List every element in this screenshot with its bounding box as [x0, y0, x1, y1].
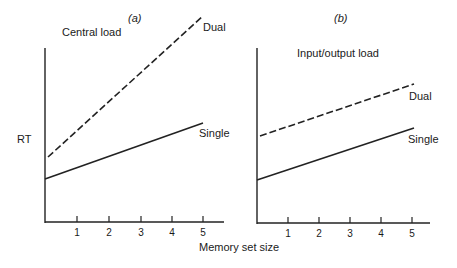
figure: (a) Central load RT 1 2 3 4 5 Dual Singl…	[0, 0, 457, 268]
panel-a-tick-labels: 1 2 3 4 5	[74, 227, 206, 238]
svg-text:2: 2	[106, 227, 112, 238]
panel-a-ticks	[77, 216, 203, 222]
panel-b-ticks	[288, 217, 412, 223]
panel-b-dual-label: Dual	[409, 90, 432, 102]
panel-a-label: (a)	[128, 12, 142, 24]
panel-b-tick-labels: 1 2 3 4 5	[285, 228, 415, 239]
panel-a-title: Central load	[62, 26, 121, 38]
x-axis-label: Memory set size	[199, 241, 279, 253]
svg-text:3: 3	[347, 228, 353, 239]
svg-text:5: 5	[409, 228, 415, 239]
svg-text:4: 4	[378, 228, 384, 239]
y-axis-label: RT	[17, 133, 32, 145]
panel-b-title: Input/output load	[297, 47, 379, 59]
panel-b-label: (b)	[334, 12, 348, 24]
panel-a-dual-label: Dual	[203, 21, 226, 33]
svg-text:4: 4	[169, 227, 175, 238]
panel-b-dual-line	[260, 84, 414, 136]
svg-text:1: 1	[285, 228, 291, 239]
panel-b-single-label: Single	[408, 133, 439, 145]
svg-text:5: 5	[200, 227, 206, 238]
panel-b-single-line	[257, 128, 414, 180]
panel-a-single-line	[45, 123, 203, 179]
svg-text:3: 3	[138, 227, 144, 238]
svg-text:1: 1	[74, 227, 80, 238]
panel-b: (b) Input/output load 1 2 3 4 5 Dual Sin…	[257, 12, 439, 239]
svg-text:2: 2	[316, 228, 322, 239]
panel-a: (a) Central load RT 1 2 3 4 5 Dual Singl…	[17, 12, 230, 238]
panel-a-single-label: Single	[199, 127, 230, 139]
